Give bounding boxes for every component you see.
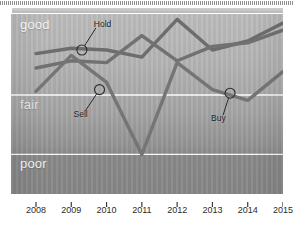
- band-label-fair: fair: [20, 98, 39, 111]
- x-tick-label: 2014: [238, 205, 258, 215]
- top-dotted-rule: [0, 1, 293, 5]
- annotation-label-sell: Sell: [74, 110, 88, 119]
- x-tick-label: 2013: [202, 205, 222, 215]
- top-gray-band: [12, 8, 283, 13]
- chart-screenshot: good fair poor Hold Sell Buy 20082009201…: [0, 0, 293, 226]
- series-line-c: [36, 55, 283, 154]
- chart-svg: [11, 14, 283, 194]
- band-label-poor: poor: [20, 157, 47, 170]
- series-line-a: [36, 19, 283, 57]
- sell-marker: [95, 85, 105, 95]
- x-axis: 20082009201020112012201320142015: [11, 196, 283, 226]
- series-lines: [36, 19, 283, 154]
- x-tick-label: 2015: [273, 205, 293, 215]
- x-tick-label: 2011: [132, 205, 151, 215]
- plot-area: [11, 14, 283, 194]
- x-tick-label: 2008: [26, 205, 46, 215]
- x-tick-label: 2010: [97, 205, 117, 215]
- hold-leader-line: [85, 28, 96, 46]
- annotation-label-hold: Hold: [94, 20, 111, 29]
- x-tick-label: 2009: [61, 205, 81, 215]
- band-label-good: good: [20, 18, 50, 31]
- annotation-label-buy: Buy: [211, 114, 226, 123]
- x-tick-label: 2012: [167, 205, 187, 215]
